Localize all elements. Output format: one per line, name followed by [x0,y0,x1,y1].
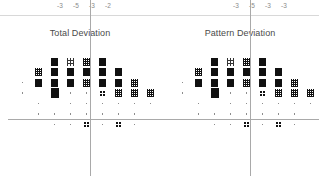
symbol-dot [150,103,152,105]
grid-cell [226,68,235,77]
symbol-dot [182,92,184,94]
symbol-dot [22,92,24,94]
symbol-solid [83,68,90,76]
symbol-solid [51,68,58,76]
grid-cell [242,68,251,77]
symbol-dot [86,103,88,105]
symbol-dot [102,103,104,105]
symbol-hatch-dense [291,79,298,87]
symbol-dot [214,113,216,115]
symbol-hatch-dense [83,58,90,66]
grid-cell [210,78,219,87]
grid-cell [50,110,59,119]
grid-cell [50,89,59,98]
symbol-dot [214,124,216,126]
grid-cell [98,89,107,98]
symbol-dot [22,82,24,84]
symbol-solid [275,68,282,76]
symbol-dot [230,113,232,115]
symbol-hatch-dense [307,89,314,97]
symbol-solid [67,68,74,76]
symbol-hatch-dense [147,89,154,97]
grid-cell [66,99,75,108]
grid-cell [130,120,139,129]
symbol-solid [99,68,106,76]
grid-cell [82,89,91,98]
grid-cell [258,89,267,98]
grid-cell [258,78,267,87]
grid-cell [242,89,251,98]
symbol-dot [102,113,104,115]
grid-cell [306,99,315,108]
grid-cell [114,68,123,77]
symbol-blind-spot [211,88,219,98]
grid-cell [130,78,139,87]
grid-cell [50,57,59,66]
symbol-solid [99,79,106,87]
grid-cell [226,57,235,66]
grid-cell [114,110,123,119]
symbol-quad-dots [244,122,249,127]
grid-cell [82,120,91,129]
grid-cell [34,78,43,87]
symbol-dot [278,103,280,105]
grid-cell [114,78,123,87]
symbol-dot [70,124,72,126]
grid-cell [258,120,267,129]
symbol-quad-dots [260,91,265,96]
symbol-solid [195,79,202,87]
symbol-hatch-dense [131,89,138,97]
grid-cell [130,110,139,119]
grid-cell [274,99,283,108]
grid-cell [306,89,315,98]
symbol-solid [243,68,250,76]
symbol-dot [118,113,120,115]
symbol-solid [259,68,266,76]
symbol-solid [211,58,218,66]
grid-cell [194,110,203,119]
grid-cell [50,120,59,129]
grid-cell [274,68,283,77]
grid-cell [242,57,251,66]
symbol-hatch-medium [227,58,234,66]
grid-cell [290,89,299,98]
symbol-dot [294,103,296,105]
symbol-hatch-dense [131,79,138,87]
grid-cell [290,110,299,119]
grid-cell [66,68,75,77]
symbol-dot [262,113,264,115]
grid-cell [82,99,91,108]
grid-cell [242,110,251,119]
grid-cell [82,78,91,87]
grid-cell [210,68,219,77]
grid-cell [82,68,91,77]
symbol-dot [198,103,200,105]
grid-cell [290,120,299,129]
symbol-dot [134,124,136,126]
symbol-dot [70,113,72,115]
grid-cell [242,99,251,108]
symbol-quad-dots [84,122,89,127]
grid-cell [66,57,75,66]
grid-cell [98,78,107,87]
symbol-hatch-medium [67,58,74,66]
grid-cell [210,110,219,119]
visual-field-report: -3 -5 -3 -2 -3 -5 -3 -3 Total Deviation … [0,0,319,176]
symbol-dot [38,103,40,105]
symbol-dot [246,103,248,105]
grid-cell [194,68,203,77]
symbol-dot [246,113,248,115]
grid-cell [130,99,139,108]
symbol-dot [54,113,56,115]
symbol-dot [246,92,248,94]
grid-cell [114,89,123,98]
symbol-dot [70,92,72,94]
grid-cell [50,68,59,77]
grid-cell [114,120,123,129]
grid-cell [98,120,107,129]
grid-cell [226,120,235,129]
symbol-dot [262,103,264,105]
grid-cell [98,110,107,119]
symbol-hatch-dense [243,79,250,87]
symbol-dot [294,113,296,115]
